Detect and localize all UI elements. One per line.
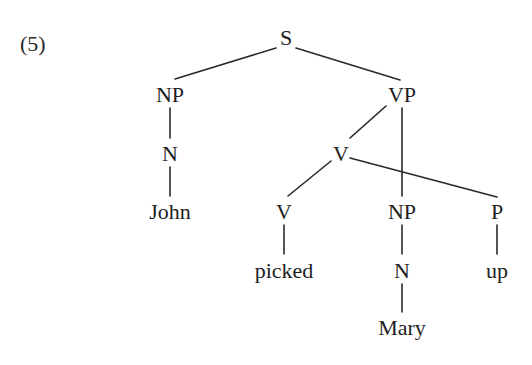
- tree-edge-s-vp: [296, 48, 400, 80]
- tree-edge-v1-v2: [288, 161, 331, 196]
- syntax-tree: SNPVPNJohnVVNPPpickedNupMary: [0, 0, 532, 365]
- tree-node-np1: NP: [156, 82, 184, 107]
- tree-node-s: S: [280, 25, 292, 50]
- tree-node-john: John: [149, 199, 191, 224]
- tree-edge-v1-p: [350, 158, 497, 197]
- tree-node-vp: VP: [388, 82, 416, 107]
- tree-node-v2: V: [276, 199, 292, 224]
- tree-node-picked: picked: [255, 258, 314, 283]
- tree-edge-vp-v1: [350, 106, 386, 138]
- tree-edges: [170, 48, 497, 312]
- tree-node-np2: NP: [388, 199, 416, 224]
- tree-node-n2: N: [394, 258, 410, 283]
- tree-node-v1: V: [333, 141, 349, 166]
- tree-nodes: SNPVPNJohnVVNPPpickedNupMary: [149, 25, 508, 340]
- tree-edge-s-np1: [175, 48, 276, 79]
- tree-node-up: up: [486, 258, 508, 283]
- tree-node-p: P: [491, 199, 503, 224]
- tree-node-n1: N: [162, 141, 178, 166]
- tree-node-mary: Mary: [378, 315, 426, 340]
